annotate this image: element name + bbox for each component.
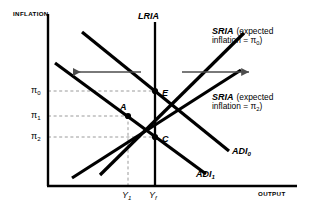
- y-tick-pi1-sub: 1: [37, 114, 40, 121]
- point-label-E: E: [162, 88, 168, 98]
- y-tick-pi0: π0: [31, 85, 41, 95]
- point-marker-A: [125, 113, 131, 119]
- point-marker-E: [152, 88, 158, 94]
- sria-pi0-note-sub: 0: [256, 40, 259, 46]
- x-tick-y1: Y1: [122, 190, 131, 200]
- sria-pi2-note-sub: 2: [256, 106, 259, 112]
- adi0-label: ADI0: [232, 146, 251, 156]
- economics-diagram: INFLATION OUTPUT π0 π1 π2 Y1 Yf LRIA SRI…: [0, 0, 309, 213]
- y-tick-pi0-sub: 0: [37, 89, 40, 96]
- adi1-text: ADI: [196, 169, 212, 179]
- sria-pi0-note-tail: ): [259, 35, 262, 45]
- lria-label: LRIA: [138, 11, 159, 21]
- point-label-C: C: [162, 134, 169, 144]
- x-tick-yf: Yf: [149, 190, 157, 200]
- sria-pi2-note-tail: ): [259, 101, 262, 111]
- adi1-sub: 1: [212, 173, 215, 180]
- point-marker-C: [152, 134, 158, 140]
- point-label-A: A: [120, 102, 127, 112]
- adi0-text: ADI: [232, 146, 248, 156]
- sria-pi0-label: SRIA(expected inflation = π0): [212, 26, 273, 46]
- y-tick-pi1: π1: [31, 110, 41, 120]
- sria-pi2-label: SRIA(expected inflation = π2): [212, 92, 273, 112]
- x-axis-label: OUTPUT: [258, 191, 286, 198]
- y-tick-pi2: π2: [31, 131, 41, 141]
- x-tick-y1-sub: 1: [128, 194, 131, 201]
- sria-pi0-note2: inflation = π: [212, 35, 256, 45]
- y-axis-label: INFLATION: [13, 11, 49, 18]
- adi1-label: ADI1: [196, 169, 215, 179]
- y-tick-pi2-sub: 2: [37, 135, 40, 142]
- sria-pi2-note2: inflation = π: [212, 101, 256, 111]
- adi0-sub: 0: [248, 150, 251, 157]
- x-tick-yf-sub: f: [155, 194, 157, 201]
